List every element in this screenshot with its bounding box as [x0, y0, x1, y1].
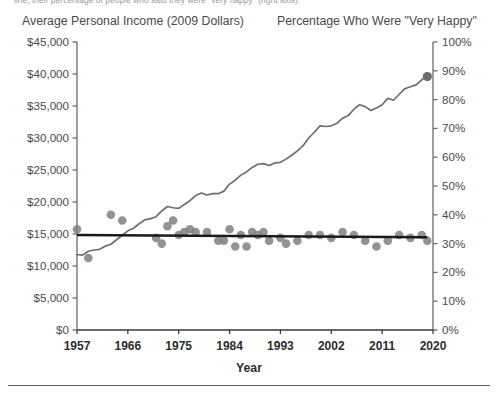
- y-axis-right-tick-label: 90%: [442, 64, 465, 77]
- plot-area: $0$5,000$10,000$15,000$20,000$25,000$30,…: [0, 36, 498, 336]
- y-axis-right-tick-label: 40%: [442, 208, 465, 221]
- y-axis-right-tick-label: 30%: [442, 237, 465, 250]
- y-axis-right-tick-label: 80%: [442, 93, 465, 106]
- y-axis-right-tick-label: 10%: [442, 294, 465, 307]
- x-axis-tick-label: 2020: [403, 339, 463, 353]
- x-axis-tick-labels: 19571966197519841993200220112020: [0, 339, 498, 357]
- y-axis-right-tick-label: 20%: [442, 265, 465, 278]
- y-axis-right-tick-label: 50%: [442, 179, 465, 192]
- chart-canvas: [0, 36, 498, 336]
- left-axis-title: Average Personal Income (2009 Dollars): [22, 14, 244, 28]
- y-axis-left-tick-label: $45,000: [0, 35, 69, 48]
- y-axis-left-tick-label: $5,000: [0, 291, 69, 304]
- y-axis-left-tick-label: $0: [0, 323, 69, 336]
- y-axis-left-tick-label: $20,000: [0, 195, 69, 208]
- y-axis-left-tick-label: $10,000: [0, 259, 69, 272]
- bottom-divider: [8, 385, 490, 386]
- y-axis-left-tick-label: $40,000: [0, 67, 69, 80]
- y-axis-left-tick-label: $15,000: [0, 227, 69, 240]
- axis-titles-row: Average Personal Income (2009 Dollars) P…: [0, 14, 498, 32]
- y-axis-right-tick-label: 60%: [442, 150, 465, 163]
- y-axis-right-tick-label: 70%: [442, 121, 465, 134]
- y-axis-left-tick-label: $35,000: [0, 99, 69, 112]
- clipped-caption: line, their percentage of people who sai…: [14, 0, 484, 5]
- y-axis-left-tick-label: $25,000: [0, 163, 69, 176]
- x-axis-title: Year: [0, 361, 498, 375]
- y-axis-left-tick-label: $30,000: [0, 131, 69, 144]
- y-axis-right-tick-label: 100%: [442, 35, 472, 48]
- right-axis-title: Percentage Who Were "Very Happy": [277, 14, 477, 28]
- y-axis-right-tick-label: 0%: [442, 323, 459, 336]
